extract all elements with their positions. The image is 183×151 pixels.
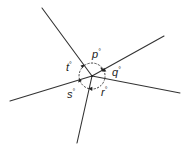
angle-unit-s: ° <box>73 88 76 95</box>
angles-around-point-diagram: p° q° r° s° t° <box>0 0 183 151</box>
angle-unit-p: ° <box>98 48 101 55</box>
arrowhead-t-icon <box>81 65 85 69</box>
angle-label-r: r° <box>101 86 108 98</box>
angle-unit-q: ° <box>118 66 121 73</box>
angle-unit-t: ° <box>69 61 72 68</box>
angle-label-q: q° <box>112 66 121 78</box>
angle-arc-t <box>79 66 84 80</box>
ray-lower <box>77 76 92 143</box>
angle-letter-p: p <box>91 48 98 60</box>
angle-unit-r: ° <box>105 86 108 93</box>
angle-label-p: p° <box>91 48 101 60</box>
angle-label-s: s° <box>67 88 76 100</box>
center-point <box>91 75 93 77</box>
angle-label-t: t° <box>66 61 72 73</box>
